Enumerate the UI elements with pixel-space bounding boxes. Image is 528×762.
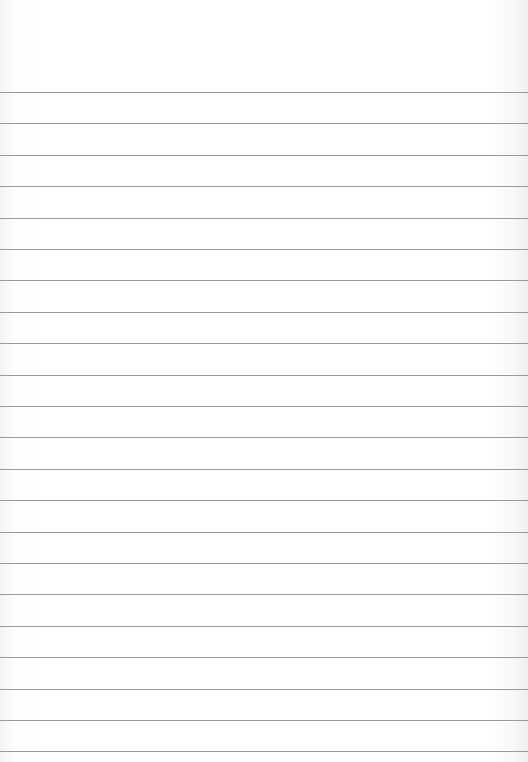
ruled-line: [0, 249, 528, 250]
ruled-line: [0, 469, 528, 470]
ruled-line: [0, 657, 528, 658]
ruled-line: [0, 92, 528, 93]
ruled-line: [0, 280, 528, 281]
ruled-line: [0, 186, 528, 187]
ruled-line: [0, 594, 528, 595]
ruled-line: [0, 123, 528, 124]
ruled-line: [0, 751, 528, 752]
ruled-line: [0, 343, 528, 344]
ruled-line: [0, 375, 528, 376]
ruled-line: [0, 689, 528, 690]
ruled-line: [0, 218, 528, 219]
ruled-line: [0, 563, 528, 564]
ruled-line: [0, 155, 528, 156]
ruled-line: [0, 437, 528, 438]
ruled-paper-sheet: [0, 0, 528, 762]
ruled-line: [0, 626, 528, 627]
ruled-line: [0, 500, 528, 501]
ruled-line: [0, 720, 528, 721]
ruled-line: [0, 532, 528, 533]
ruled-line: [0, 312, 528, 313]
ruled-line: [0, 406, 528, 407]
